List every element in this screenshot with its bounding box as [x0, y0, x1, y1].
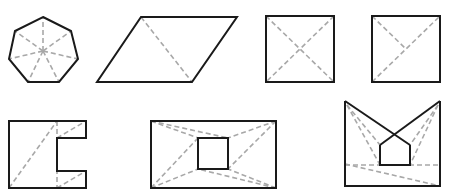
m-shape-outer: [345, 101, 440, 186]
m-shape-diagonals: [345, 105, 440, 186]
triangulation-figure: [0, 0, 450, 196]
c-shape: [9, 121, 86, 188]
parallelogram-diagonal: [141, 17, 192, 82]
rect-hole-shape: [151, 121, 276, 188]
parallelogram-shape: [97, 17, 237, 82]
m-shape-notch: [380, 145, 410, 165]
m-shape-right-slope: [380, 101, 440, 145]
square-x-shape: [266, 16, 334, 82]
m-shape-left-slope: [345, 101, 410, 145]
rect-hole-diagonals: [151, 121, 276, 188]
rect-hole-outer: [151, 121, 276, 188]
rect-hole-inner: [198, 138, 228, 169]
m-shape: [345, 101, 440, 186]
heptagon-shape: [9, 17, 78, 82]
c-shape-diagonals: [9, 121, 86, 188]
square-y-shape: [372, 16, 440, 82]
square-x-diagonals: [266, 16, 334, 82]
square-y-diagonals: [372, 16, 440, 82]
